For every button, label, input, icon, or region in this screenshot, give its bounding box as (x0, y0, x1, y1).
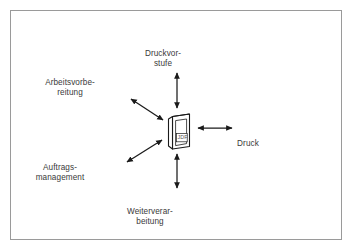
node-line-1: Arbeitsvorbe- (45, 78, 95, 87)
arrow-to-auftragsmanagement (127, 140, 162, 162)
arrow-to-arbeitsvorbereitung (131, 99, 163, 120)
node-line-2: reitung (30, 88, 110, 99)
node-line-2: stufe (123, 59, 203, 70)
jdf-label: JDF (177, 134, 187, 140)
node-label-auftragsmanagement: Auftrags- management (20, 152, 100, 194)
node-label-arbeitsvorbereitung: Arbeitsvorbe- reitung (30, 67, 110, 109)
diagram-page: JDF Druckvor- stufe Arbeitsvorbe- reitun… (0, 0, 354, 252)
node-line-1: Auftrags- (43, 163, 77, 172)
node-label-druck: Druck (222, 128, 274, 149)
node-label-druckvorstufe: Druckvor- stufe (123, 38, 203, 80)
node-label-weiterverarbeitung: Weiterverar- beitung (110, 196, 190, 238)
jdf-document-icon (169, 114, 190, 149)
node-line-1: Druckvor- (145, 49, 181, 58)
node-line-1: Weiterverar- (127, 207, 173, 216)
node-line-2: management (20, 173, 100, 184)
node-line-1: Druck (237, 139, 259, 148)
node-line-2: beitung (110, 217, 190, 228)
